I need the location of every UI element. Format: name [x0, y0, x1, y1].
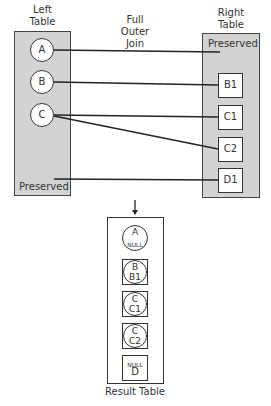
- result-left-value: B: [123, 262, 147, 272]
- result-right-value: C1: [123, 304, 147, 314]
- result-arrow-head: [132, 210, 138, 215]
- result-left-value: A: [122, 227, 148, 237]
- result-row-c-c1: C C1: [122, 291, 148, 317]
- result-left-value: C: [123, 294, 147, 304]
- result-table-label: Result Table: [95, 386, 175, 398]
- line-b-b1: [54, 82, 218, 85]
- result-row-b-b1: B B1: [122, 259, 148, 285]
- result-row-c-c2: C C2: [122, 323, 148, 349]
- line-preserved-d1: [54, 179, 218, 180]
- result-right-value: C2: [123, 336, 147, 346]
- result-right-value: B1: [123, 272, 147, 282]
- line-a-preserved: [54, 50, 220, 52]
- result-left-value: C: [123, 326, 147, 336]
- line-c-c2: [54, 116, 218, 149]
- result-row-null-d: NULL D: [122, 355, 148, 381]
- result-right-value: D: [123, 367, 147, 377]
- result-right-value: NULL: [122, 240, 148, 250]
- line-c-c1: [54, 115, 218, 117]
- result-row-a-null: A NULL: [122, 225, 148, 251]
